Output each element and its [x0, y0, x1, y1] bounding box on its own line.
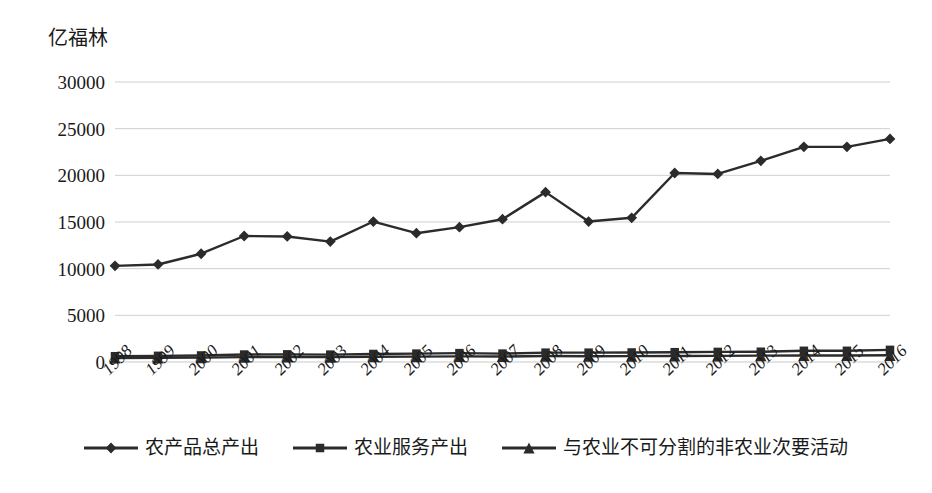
series-line [115, 139, 890, 266]
legend-marker-diamond-icon [84, 440, 138, 456]
y-axis-tick-label: 20000 [58, 166, 106, 185]
data-point-marker [368, 216, 379, 227]
data-point-marker [106, 442, 117, 453]
data-point-marker [153, 259, 164, 270]
y-axis-tick-label: 30000 [58, 73, 106, 92]
y-axis-tick-label: 25000 [58, 119, 106, 138]
y-axis-tick-label: 5000 [67, 306, 105, 325]
data-point-marker [712, 169, 723, 180]
data-point-marker [411, 228, 422, 239]
y-axis-tick-label: 15000 [58, 213, 106, 232]
data-point-marker [842, 141, 853, 152]
legend-label: 农业服务产出 [354, 438, 468, 457]
legend-label: 农产品总产出 [145, 438, 259, 457]
legend-marker-triangle-icon [502, 440, 556, 456]
data-point-marker [454, 222, 465, 233]
x-axis-tick-labels: 1998199920002001200220032004200520062007… [115, 366, 890, 426]
y-axis-tick-labels: 050001000015000200002500030000 [0, 0, 105, 493]
data-point-marker [110, 260, 121, 271]
series-1 [110, 134, 896, 272]
data-point-marker [755, 155, 766, 166]
legend-item-3[interactable]: 与农业不可分割的非农业次要活动 [502, 438, 848, 457]
legend-item-2[interactable]: 农业服务产出 [293, 438, 468, 457]
plot-area [115, 82, 890, 362]
y-axis-tick-label: 10000 [58, 259, 106, 278]
series-layer [115, 82, 890, 362]
data-point-marker [798, 141, 809, 152]
data-point-marker [316, 443, 325, 452]
data-point-marker [196, 248, 207, 259]
legend-item-1[interactable]: 农产品总产出 [84, 438, 259, 457]
legend-marker-square-icon [293, 440, 347, 456]
data-point-marker [282, 231, 293, 242]
data-point-marker [325, 236, 336, 247]
chart-legend: 农产品总产出农业服务产出与农业不可分割的非农业次要活动 [0, 438, 932, 457]
legend-label: 与农业不可分割的非农业次要活动 [563, 438, 848, 457]
data-point-marker [885, 134, 896, 145]
data-point-marker [239, 231, 250, 242]
chart-container: 亿福林 050001000015000200002500030000 19981… [0, 0, 932, 493]
